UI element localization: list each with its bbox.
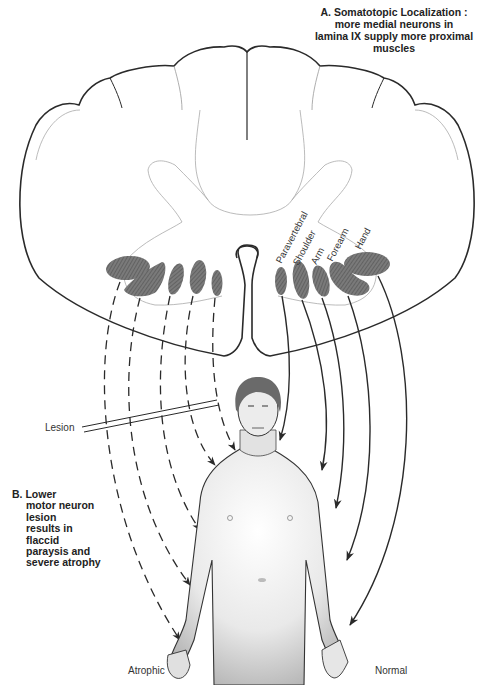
annotation-b-line-4: results in bbox=[12, 523, 101, 534]
annotation-b-line-7: severe atrophy bbox=[12, 557, 101, 568]
annotation-a: A. Somatotopic Localization : more media… bbox=[296, 6, 490, 54]
spinal-cord-section bbox=[20, 46, 474, 356]
annotation-a-line-3: lamina IX supply more proximal bbox=[296, 30, 490, 42]
label-lesion: Lesion bbox=[45, 422, 74, 433]
human-figure bbox=[167, 377, 348, 685]
annotation-a-line-4: muscles bbox=[296, 42, 490, 54]
label-normal: Normal bbox=[375, 665, 407, 676]
annotation-b: B. Lower motor neuron lesion results in … bbox=[12, 489, 101, 569]
annotation-a-line-2: more medial neurons in bbox=[296, 18, 490, 30]
lesion-marker[interactable] bbox=[82, 400, 219, 432]
annotation-a-line-1: A. Somatotopic Localization : bbox=[296, 6, 490, 18]
label-atrophic: Atrophic bbox=[128, 665, 165, 676]
spinal-cord-diagram bbox=[0, 0, 490, 685]
